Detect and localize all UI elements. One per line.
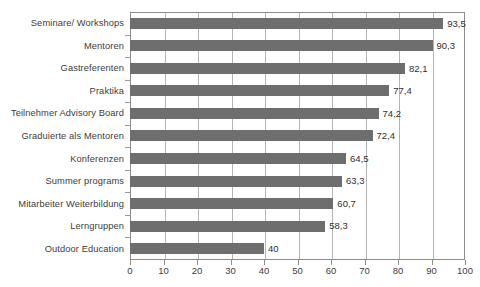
category-label: Mitarbeiter Weiterbildung xyxy=(0,192,124,215)
y-axis-tick xyxy=(125,192,130,193)
y-axis-tick xyxy=(125,125,130,126)
bar-value-label: 93,5 xyxy=(447,19,466,29)
bar-value-label: 63,3 xyxy=(346,176,365,186)
bar-value-label: 90,3 xyxy=(437,41,456,51)
bar-value-label: 60,7 xyxy=(337,199,356,209)
bar-row[interactable]: 74,2 xyxy=(130,102,465,125)
bars-layer: 93,590,382,177,474,272,464,563,360,758,3… xyxy=(130,12,465,260)
category-label: Seminare/ Workshops xyxy=(0,12,124,35)
bar-row[interactable]: 93,5 xyxy=(130,12,465,35)
bar-value-label: 72,4 xyxy=(377,131,396,141)
category-label: Lerngruppen xyxy=(0,215,124,238)
bar[interactable] xyxy=(130,85,389,96)
bar-value-label: 64,5 xyxy=(350,154,369,164)
bar-value-label: 74,2 xyxy=(383,109,402,119)
x-axis-tick-label: 100 xyxy=(457,266,473,276)
bar-row[interactable]: 58,3 xyxy=(130,215,465,238)
y-axis-tick xyxy=(125,215,130,216)
bar-row[interactable]: 40 xyxy=(130,237,465,260)
y-axis-tick xyxy=(125,35,130,36)
bar-row[interactable]: 72,4 xyxy=(130,125,465,148)
y-axis-tick xyxy=(125,102,130,103)
bar-value-label: 82,1 xyxy=(409,64,428,74)
x-axis-tick-label: 50 xyxy=(292,266,303,276)
y-axis-tick xyxy=(125,57,130,58)
y-axis-tick xyxy=(125,147,130,148)
bar-chart: Seminare/ WorkshopsMentorenGastreferente… xyxy=(0,0,480,287)
y-axis-tick xyxy=(125,80,130,81)
category-label: Mentoren xyxy=(0,35,124,58)
y-axis-tick xyxy=(125,170,130,171)
bar[interactable] xyxy=(130,198,333,209)
bar-value-label: 40 xyxy=(268,244,279,254)
bar-row[interactable]: 63,3 xyxy=(130,170,465,193)
x-axis-tick-label: 90 xyxy=(426,266,437,276)
category-label: Gastreferenten xyxy=(0,57,124,80)
x-axis-tick-label: 0 xyxy=(127,266,132,276)
x-axis-tick-label: 80 xyxy=(393,266,404,276)
x-axis-tick-label: 40 xyxy=(259,266,270,276)
category-label: Konferenzen xyxy=(0,147,124,170)
category-label: Outdoor Education xyxy=(0,237,124,260)
bar[interactable] xyxy=(130,243,264,254)
bar[interactable] xyxy=(130,130,373,141)
bar-value-label: 77,4 xyxy=(393,86,412,96)
category-label: Praktika xyxy=(0,80,124,103)
bar-value-label: 58,3 xyxy=(329,221,348,231)
bar-row[interactable]: 90,3 xyxy=(130,35,465,58)
category-label: Teilnehmer Advisory Board xyxy=(0,102,124,125)
x-axis-tick-label: 20 xyxy=(192,266,203,276)
bar[interactable] xyxy=(130,18,443,29)
bar-row[interactable]: 60,7 xyxy=(130,192,465,215)
bar[interactable] xyxy=(130,63,405,74)
x-axis-tick-label: 30 xyxy=(225,266,236,276)
category-label: Graduierte als Mentoren xyxy=(0,125,124,148)
x-axis-tick-label: 70 xyxy=(359,266,370,276)
bar[interactable] xyxy=(130,153,346,164)
bar[interactable] xyxy=(130,221,325,232)
y-axis-tick xyxy=(125,237,130,238)
bar[interactable] xyxy=(130,176,342,187)
bar-row[interactable]: 64,5 xyxy=(130,147,465,170)
bar[interactable] xyxy=(130,40,433,51)
bar-row[interactable]: 82,1 xyxy=(130,57,465,80)
x-axis-tick-label: 10 xyxy=(158,266,169,276)
category-axis-labels: Seminare/ WorkshopsMentorenGastreferente… xyxy=(0,12,124,260)
category-label: Summer programs xyxy=(0,170,124,193)
x-axis-tick-label: 60 xyxy=(326,266,337,276)
bar[interactable] xyxy=(130,108,379,119)
bar-row[interactable]: 77,4 xyxy=(130,80,465,103)
